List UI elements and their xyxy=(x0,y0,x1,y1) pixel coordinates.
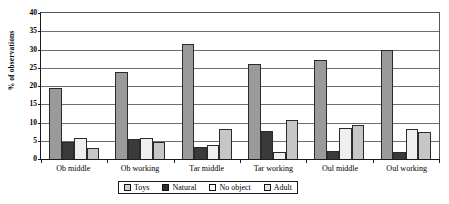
y-axis-title: % of observations xyxy=(7,6,16,116)
y-axis-tick-mark xyxy=(38,123,42,124)
bar xyxy=(128,139,141,159)
y-axis-tick-label: 40 xyxy=(15,9,37,17)
x-axis-tick-label: Tar middle xyxy=(173,164,240,173)
y-axis-tick-mark xyxy=(38,13,42,14)
x-axis-tick-mark xyxy=(306,159,307,163)
bar xyxy=(153,142,166,159)
bar xyxy=(248,64,261,159)
x-axis-tick-mark xyxy=(373,159,374,163)
legend-swatch-icon xyxy=(162,184,169,191)
bar xyxy=(194,147,207,159)
legend-label: Toys xyxy=(134,184,149,192)
x-axis-tick-label: Tar working xyxy=(240,164,307,173)
bar-groups xyxy=(41,13,439,159)
x-axis-tick-label: Oul middle xyxy=(307,164,374,173)
legend-swatch-icon xyxy=(264,184,271,191)
legend-label: Adult xyxy=(274,184,292,192)
legend-swatch-icon xyxy=(209,184,216,191)
legend-swatch-icon xyxy=(124,184,131,191)
y-axis-tick-label: 10 xyxy=(15,119,37,127)
plot-wrapper: 0510152025303540 xyxy=(40,12,440,160)
x-axis-tick-mark xyxy=(439,159,440,163)
y-axis-tick-mark xyxy=(38,141,42,142)
bar xyxy=(140,138,153,159)
bar-chart: % of observations 0510152025303540 Ob mi… xyxy=(0,0,449,204)
y-axis-tick-label: 20 xyxy=(15,82,37,90)
bar xyxy=(393,152,406,159)
bar-group xyxy=(240,13,306,159)
y-axis-tick-mark xyxy=(38,31,42,32)
bar xyxy=(261,131,274,159)
bar xyxy=(115,72,128,159)
bar-group xyxy=(373,13,439,159)
x-axis-tick-mark xyxy=(107,159,108,163)
x-axis-tick-label: Ob working xyxy=(107,164,174,173)
y-axis-tick-mark xyxy=(38,68,42,69)
bar xyxy=(406,129,419,159)
x-axis-labels: Ob middleOb workingTar middleTar working… xyxy=(40,164,440,173)
y-axis-tick-label: 5 xyxy=(15,137,37,145)
bar xyxy=(314,60,327,159)
bar xyxy=(74,138,87,159)
legend-item[interactable]: No object xyxy=(209,184,250,192)
bar xyxy=(381,50,394,159)
x-axis-tick-mark xyxy=(240,159,241,163)
x-axis-tick-mark xyxy=(41,159,42,163)
bar xyxy=(87,148,100,159)
x-axis-tick-label: Oul working xyxy=(373,164,440,173)
bar xyxy=(352,125,365,159)
bar-group xyxy=(174,13,240,159)
bar xyxy=(327,151,340,159)
y-axis-tick-mark xyxy=(38,50,42,51)
bar xyxy=(182,44,195,159)
y-axis-tick-label: 15 xyxy=(15,101,37,109)
y-axis-tick-label: 35 xyxy=(15,28,37,36)
bar xyxy=(286,120,299,159)
bar xyxy=(49,88,62,159)
legend-label: Natural xyxy=(172,184,196,192)
bar-group xyxy=(41,13,107,159)
legend-label: No object xyxy=(219,184,250,192)
y-axis-tick-label: 0 xyxy=(15,155,37,163)
legend-item[interactable]: Adult xyxy=(264,184,292,192)
y-axis-tick-label: 25 xyxy=(15,64,37,72)
bar xyxy=(339,128,352,159)
bar xyxy=(219,129,232,159)
legend-item[interactable]: Natural xyxy=(162,184,196,192)
y-axis-tick-label: 30 xyxy=(15,46,37,54)
chart-legend: ToysNaturalNo objectAdult xyxy=(118,181,298,194)
x-axis-tick-label: Ob middle xyxy=(40,164,107,173)
y-axis-tick-mark xyxy=(38,104,42,105)
bar xyxy=(273,152,286,159)
bar xyxy=(207,145,220,159)
x-axis-tick-mark xyxy=(174,159,175,163)
bar xyxy=(62,142,75,159)
y-axis-tick-mark xyxy=(38,86,42,87)
legend-item[interactable]: Toys xyxy=(124,184,149,192)
bar-group xyxy=(107,13,173,159)
bar xyxy=(418,132,431,159)
bar-group xyxy=(306,13,372,159)
plot-area: 0510152025303540 xyxy=(40,12,440,160)
